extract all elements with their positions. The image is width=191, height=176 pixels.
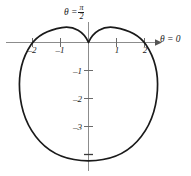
- cardioid-figure: θ =π2 θ = 0 –2 –1 1 2 –1 –2 –3: [0, 0, 191, 176]
- pi-over-two-fraction: π2: [78, 4, 84, 22]
- x-tick-label-2: 2: [143, 46, 148, 55]
- polar-plot-canvas: [0, 0, 191, 176]
- y-tick-label--1: –1: [73, 66, 82, 75]
- x-tick-label--2: –2: [28, 46, 37, 55]
- theta-zero-label: θ = 0: [160, 35, 181, 45]
- x-tick-label-1: 1: [115, 46, 120, 55]
- y-tick-label--3: –3: [73, 122, 82, 131]
- fraction-denominator: 2: [78, 13, 84, 21]
- x-tick-label--1: –1: [56, 46, 65, 55]
- theta-pi-over-two-label: θ =π2: [64, 4, 84, 22]
- y-tick-label--2: –2: [73, 94, 82, 103]
- theta-pi-over-two-prefix: θ =: [64, 7, 77, 17]
